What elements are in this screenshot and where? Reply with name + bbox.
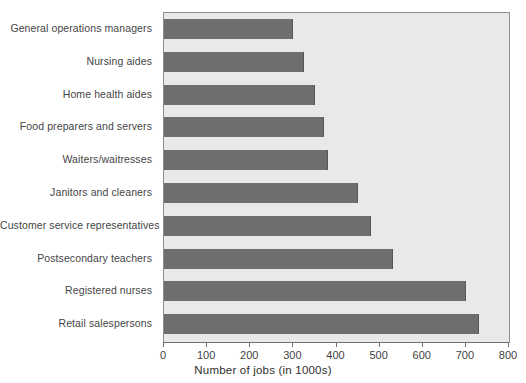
bar — [164, 216, 371, 236]
category-label: General operations managers — [0, 22, 152, 34]
x-axis-tick — [465, 342, 466, 347]
x-axis-tick-label: 200 — [229, 349, 269, 361]
category-label: Registered nurses — [0, 284, 152, 296]
x-axis-tick-label: 500 — [359, 349, 399, 361]
x-axis-tick — [206, 342, 207, 347]
x-axis-tick-label: 400 — [316, 349, 356, 361]
bar — [164, 314, 479, 334]
category-label: Customer service representatives — [0, 219, 152, 231]
category-label: Nursing aides — [0, 55, 152, 67]
category-axis-labels: General operations managersNursing aides… — [0, 13, 158, 343]
x-axis-tick-label: 0 — [143, 349, 183, 361]
bar — [164, 85, 315, 105]
x-axis-tick — [336, 342, 337, 347]
bar — [164, 150, 328, 170]
x-axis-tick-label: 800 — [488, 349, 526, 361]
x-axis-tick-label: 600 — [402, 349, 442, 361]
x-axis-title: Number of jobs (in 1000s) — [0, 364, 526, 376]
bar — [164, 249, 393, 269]
category-label: Janitors and cleaners — [0, 186, 152, 198]
bar — [164, 183, 358, 203]
category-label: Food preparers and servers — [0, 120, 152, 132]
x-axis-tick-label: 300 — [272, 349, 312, 361]
bar — [164, 281, 466, 301]
x-axis-tick — [249, 342, 250, 347]
category-label: Postsecondary teachers — [0, 252, 152, 264]
x-axis-tick — [292, 342, 293, 347]
x-axis-tick — [163, 342, 164, 347]
x-axis-tick-label: 700 — [445, 349, 485, 361]
x-axis-tick — [422, 342, 423, 347]
x-axis-tick — [379, 342, 380, 347]
x-axis-tick-label: 100 — [186, 349, 226, 361]
category-label: Retail salespersons — [0, 317, 152, 329]
plot-area — [163, 12, 510, 343]
bar — [164, 19, 293, 39]
bar — [164, 117, 324, 137]
x-axis-tick — [508, 342, 509, 347]
category-label: Home health aides — [0, 88, 152, 100]
category-label: Waiters/waitresses — [0, 153, 152, 165]
bar-chart: General operations managersNursing aides… — [0, 0, 526, 383]
bar — [164, 52, 304, 72]
